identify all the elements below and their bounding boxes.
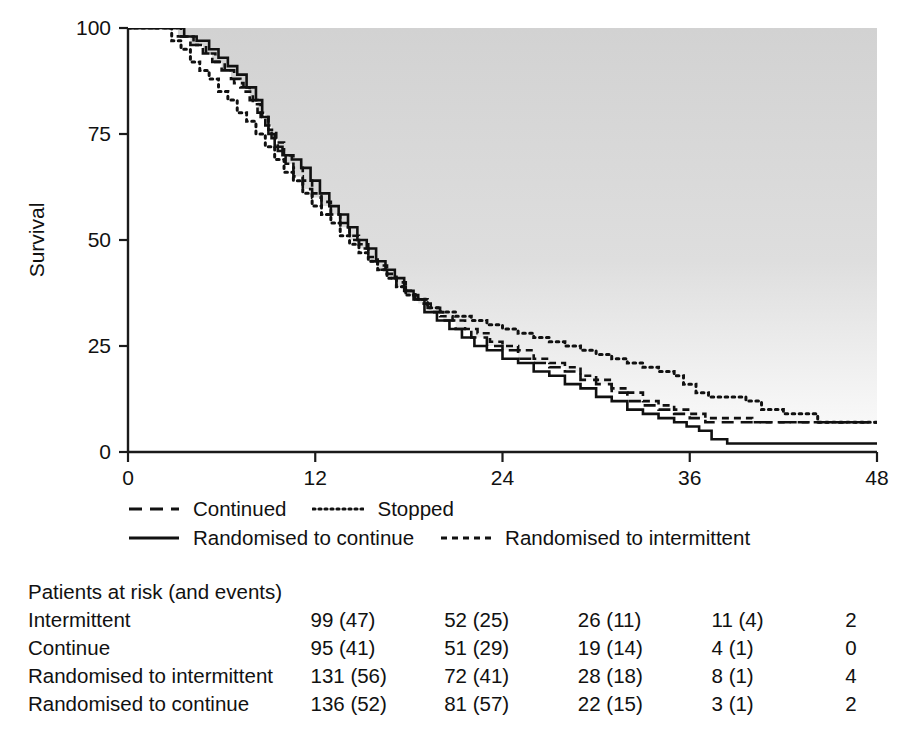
plot-area: 0255075100 012243648 Survival	[0, 0, 910, 500]
risk-row-label: Randomised to intermittent	[28, 662, 310, 690]
risk-row-value: 52 (25)	[444, 606, 578, 634]
legend-label: Continued	[193, 497, 286, 521]
risk-row-value: 95 (41)	[310, 634, 444, 662]
risk-row-value: 22 (15)	[578, 690, 712, 718]
risk-row-value: 2	[845, 606, 910, 634]
patients-at-risk-table: Patients at risk (and events) Intermitte…	[0, 578, 910, 718]
risk-row-label: Randomised to continue	[28, 690, 310, 718]
legend-line-swatch-dotted	[312, 502, 364, 516]
risk-row-value: 19 (14)	[578, 634, 712, 662]
legend-line-swatch-solid	[128, 531, 180, 545]
risk-row-value: 4 (1)	[712, 634, 846, 662]
risk-row-label: Continue	[28, 634, 310, 662]
risk-row-label: Intermittent	[28, 606, 310, 634]
legend-item-continued: Continued	[128, 497, 286, 521]
risk-row-value: 99 (47)	[310, 606, 444, 634]
legend-label: Randomised to continue	[193, 526, 414, 550]
x-tick-label: 24	[491, 466, 515, 489]
legend-row-1: ContinuedStopped	[0, 494, 910, 523]
risk-row-value: 8 (1)	[712, 662, 846, 690]
risk-table-row: Randomised to continue136 (52)81 (57)22 …	[28, 690, 910, 718]
y-tick-label: 50	[88, 228, 111, 251]
risk-row-value: 28 (18)	[578, 662, 712, 690]
risk-table-row: Continue95 (41)51 (29)19 (14)4 (1)0	[28, 634, 910, 662]
survival-chart-svg: 0255075100 012243648 Survival	[0, 0, 910, 500]
y-tick-label: 0	[99, 440, 111, 463]
legend-line-swatch-short-dashed	[440, 531, 492, 545]
y-tick-label: 100	[76, 16, 111, 39]
risk-table-title: Patients at risk (and events)	[0, 578, 910, 606]
legend-item-stopped: Stopped	[312, 497, 453, 521]
risk-row-value: 51 (29)	[444, 634, 578, 662]
legend-item-randomised-to-continue: Randomised to continue	[128, 526, 414, 550]
chart-legend: ContinuedStopped Randomised to continueR…	[0, 494, 910, 552]
risk-row-value: 0	[845, 634, 910, 662]
legend-item-randomised-to-intermittent: Randomised to intermittent	[440, 526, 750, 550]
x-axis-ticks: 012243648	[122, 452, 889, 489]
risk-table: Intermittent99 (47)52 (25)26 (11)11 (4)2…	[28, 606, 910, 718]
plot-background-shade	[128, 28, 877, 452]
y-tick-label: 75	[88, 122, 111, 145]
x-tick-label: 0	[122, 466, 134, 489]
risk-row-value: 11 (4)	[712, 606, 846, 634]
risk-table-row: Intermittent99 (47)52 (25)26 (11)11 (4)2	[28, 606, 910, 634]
legend-label: Stopped	[377, 497, 453, 521]
risk-row-value: 3 (1)	[712, 690, 846, 718]
risk-row-value: 72 (41)	[444, 662, 578, 690]
x-tick-label: 48	[865, 466, 888, 489]
risk-table-row: Randomised to intermittent131 (56)72 (41…	[28, 662, 910, 690]
risk-row-value: 2	[845, 690, 910, 718]
risk-row-value: 136 (52)	[310, 690, 444, 718]
risk-row-value: 26 (11)	[578, 606, 712, 634]
legend-row-2: Randomised to continueRandomised to inte…	[0, 523, 910, 552]
y-axis-title: Survival	[25, 203, 48, 278]
x-tick-label: 36	[678, 466, 701, 489]
risk-row-value: 4	[845, 662, 910, 690]
x-tick-label: 12	[304, 466, 327, 489]
risk-row-value: 81 (57)	[444, 690, 578, 718]
survival-figure: 0255075100 012243648 Survival ContinuedS…	[0, 0, 910, 747]
risk-row-value: 131 (56)	[310, 662, 444, 690]
y-tick-label: 25	[88, 334, 111, 357]
legend-line-swatch-long-dashed	[128, 502, 180, 516]
y-axis-ticks: 0255075100	[76, 16, 128, 463]
legend-label: Randomised to intermittent	[505, 526, 750, 550]
